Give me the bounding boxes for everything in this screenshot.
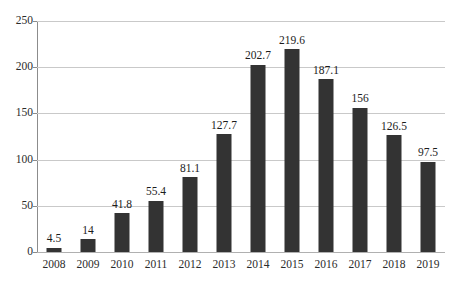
y-tick-label-100: 100 (0, 154, 33, 166)
bar-group-2008: 4.5 (37, 21, 71, 252)
bar-group-2009: 14 (71, 21, 105, 252)
bar-group-2011: 55.4 (139, 21, 173, 252)
bar-group-2012: 81.1 (173, 21, 207, 252)
bar-2013[interactable] (217, 134, 232, 252)
bar-2017[interactable] (353, 108, 368, 252)
y-tick-label-0: 0 (0, 246, 33, 258)
bar-group-2018: 126.5 (377, 21, 411, 252)
plot-area: 4.51441.855.481.1127.7202.7219.6187.1156… (37, 21, 445, 252)
bar-chart: 050100150200250 4.51441.855.481.1127.720… (0, 0, 463, 287)
bar-value-label-2009: 14 (82, 225, 94, 237)
bar-group-2016: 187.1 (309, 21, 343, 252)
x-tick-label-2019: 2019 (417, 259, 440, 271)
y-tick-label-200: 200 (0, 61, 33, 73)
bar-2010[interactable] (115, 213, 130, 252)
bar-value-label-2016: 187.1 (313, 65, 339, 77)
x-tick-label-2018: 2018 (383, 259, 406, 271)
y-axis: 050100150200250 (0, 0, 33, 287)
x-tick-label-2016: 2016 (315, 259, 338, 271)
bar-2014[interactable] (251, 65, 266, 252)
bar-value-label-2018: 126.5 (381, 121, 407, 133)
bar-value-label-2014: 202.7 (245, 50, 271, 62)
x-tick-label-2010: 2010 (111, 259, 134, 271)
bar-value-label-2019: 97.5 (418, 147, 438, 159)
bar-2009[interactable] (81, 239, 96, 252)
x-axis: 2008200920102011201220132014201520162017… (37, 259, 445, 279)
bar-group-2013: 127.7 (207, 21, 241, 252)
x-tick-label-2012: 2012 (179, 259, 202, 271)
bar-value-label-2011: 55.4 (146, 186, 166, 198)
y-tick-label-50: 50 (0, 200, 33, 212)
bar-2019[interactable] (421, 162, 436, 252)
x-tick-label-2013: 2013 (213, 259, 236, 271)
x-tick-label-2009: 2009 (77, 259, 100, 271)
bar-2015[interactable] (285, 49, 300, 252)
y-tick-label-150: 150 (0, 108, 33, 120)
bar-2012[interactable] (183, 177, 198, 252)
bar-group-2010: 41.8 (105, 21, 139, 252)
bar-value-label-2008: 4.5 (47, 233, 61, 245)
bar-group-2014: 202.7 (241, 21, 275, 252)
bar-value-label-2010: 41.8 (112, 199, 132, 211)
bar-2011[interactable] (149, 201, 164, 252)
bar-2008[interactable] (47, 248, 62, 252)
bar-value-label-2013: 127.7 (211, 120, 237, 132)
bar-group-2019: 97.5 (411, 21, 445, 252)
bar-value-label-2017: 156 (351, 93, 368, 105)
x-tick-label-2014: 2014 (247, 259, 270, 271)
gridline-0 (37, 252, 445, 253)
bar-group-2017: 156 (343, 21, 377, 252)
x-tick-label-2011: 2011 (145, 259, 168, 271)
bar-group-2015: 219.6 (275, 21, 309, 252)
x-tick-label-2008: 2008 (43, 259, 66, 271)
y-tick-label-250: 250 (0, 15, 33, 27)
x-tick-label-2017: 2017 (349, 259, 372, 271)
bar-value-label-2015: 219.6 (279, 35, 305, 47)
x-tick-label-2015: 2015 (281, 259, 304, 271)
bar-2016[interactable] (319, 79, 334, 252)
bar-value-label-2012: 81.1 (180, 163, 200, 175)
bar-2018[interactable] (387, 135, 402, 252)
